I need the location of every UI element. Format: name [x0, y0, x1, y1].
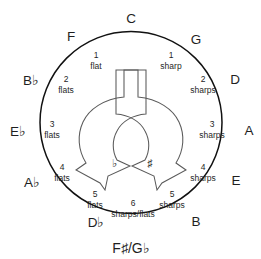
- key-label-a[interactable]: A: [244, 123, 253, 138]
- count-num-1-flat: 1: [94, 50, 99, 60]
- count-num-3-sharps: 3: [210, 119, 215, 129]
- count-word-3-sharps: sharps: [199, 130, 225, 140]
- count-word-5-flats: flats: [87, 200, 103, 210]
- key-label-d-flat[interactable]: D♭: [88, 215, 105, 230]
- key-label-e-flat[interactable]: E♭: [10, 124, 26, 139]
- count-num-5-flats: 5: [93, 189, 98, 199]
- count-num-2-flats: 2: [64, 74, 69, 84]
- count-word-6-sharps-flats: sharps/flats: [111, 209, 154, 219]
- count-num-1-sharp: 1: [169, 50, 174, 60]
- circle-of-fifths-diagram: ♭ ♯ C G D A E B D♭ A♭ E♭ B♭ F F♯/G♭ 1 fl…: [0, 0, 261, 259]
- count-num-3-flats: 3: [50, 119, 55, 129]
- key-label-c[interactable]: C: [126, 11, 136, 26]
- count-word-2-sharps: sharps: [190, 85, 216, 95]
- count-word-2-flats: flats: [58, 85, 74, 95]
- flats-arrow-body: [76, 70, 146, 190]
- sharps-arrow-body: [116, 70, 186, 190]
- circle-ring: [40, 32, 222, 214]
- key-label-a-flat[interactable]: A♭: [24, 175, 40, 190]
- key-label-d[interactable]: D: [230, 72, 240, 87]
- key-label-b-flat[interactable]: B♭: [23, 73, 39, 88]
- diagram-canvas: ♭ ♯ C G D A E B D♭ A♭ E♭ B♭ F F♯/G♭ 1 fl…: [0, 0, 261, 259]
- count-num-6-sharps-flats: 6: [131, 198, 136, 208]
- count-word-3-flats: flats: [44, 130, 60, 140]
- count-num-5-sharps: 5: [170, 189, 175, 199]
- count-word-1-sharp: sharp: [160, 61, 182, 71]
- key-label-f[interactable]: F: [67, 29, 75, 44]
- key-label-f-sharp-g-flat[interactable]: F♯/G♭: [112, 240, 149, 256]
- key-label-b[interactable]: B: [191, 214, 200, 229]
- count-num-2-sharps: 2: [201, 74, 206, 84]
- key-label-e[interactable]: E: [231, 173, 240, 188]
- count-num-4-sharps: 4: [201, 162, 206, 172]
- sharp-symbol-icon: ♯: [147, 157, 153, 169]
- count-word-4-flats: flats: [54, 173, 70, 183]
- key-label-g[interactable]: G: [191, 32, 202, 47]
- count-word-4-sharps: sharps: [190, 173, 216, 183]
- count-num-4-flats: 4: [60, 162, 65, 172]
- count-word-1-flat: flat: [90, 61, 102, 71]
- count-word-5-sharps: sharps: [159, 200, 185, 210]
- flat-symbol-icon: ♭: [112, 157, 117, 169]
